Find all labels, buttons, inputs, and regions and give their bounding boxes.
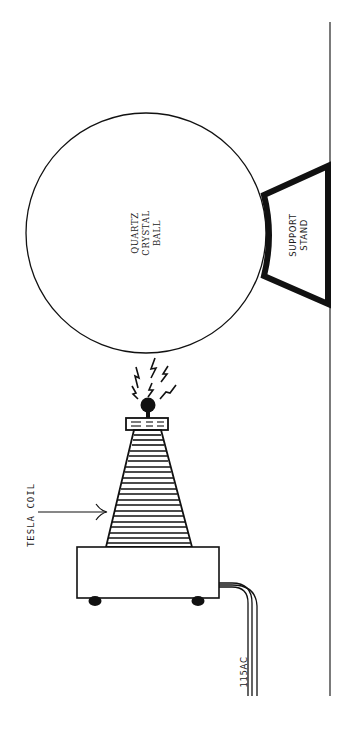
base-wheel-left bbox=[89, 596, 102, 606]
crystal-ball-label-line-3: BALL bbox=[152, 220, 162, 246]
spark-bolt-icon bbox=[160, 385, 176, 399]
spark-bolt-icon bbox=[161, 366, 168, 382]
coil-top-cap bbox=[126, 418, 168, 430]
support-stand-label-line-1: SUPPORT bbox=[288, 213, 298, 256]
spark-bolt-icon bbox=[132, 386, 138, 399]
tesla-coil-arrow-icon bbox=[38, 504, 107, 520]
diagram-canvas: QUARTZ CRYSTAL BALL SUPPORT STAND bbox=[0, 0, 348, 729]
crystal-ball-label-line-1: QUARTZ bbox=[130, 212, 140, 253]
support-stand-label-line-2: STAND bbox=[299, 219, 309, 251]
base-wheel-right bbox=[192, 596, 205, 606]
power-label: 115AC bbox=[239, 657, 249, 688]
spark-bolt-icon bbox=[135, 367, 139, 388]
support-stand-label: SUPPORT STAND bbox=[288, 213, 309, 256]
power-label-text: 115AC bbox=[239, 657, 249, 688]
crystal-ball-label-line-2: CRYSTAL bbox=[141, 210, 151, 255]
coil-top-terminal-stem bbox=[146, 410, 150, 418]
tesla-coil-label: TESLA COIL bbox=[26, 483, 36, 547]
spark-discharge bbox=[132, 358, 176, 399]
crystal-ball-label: QUARTZ CRYSTAL BALL bbox=[130, 210, 162, 255]
coil-base-box bbox=[77, 547, 219, 598]
spark-bolt-icon bbox=[151, 358, 156, 378]
spark-bolt-icon bbox=[148, 383, 153, 397]
power-cord bbox=[219, 583, 257, 696]
tesla-coil-label-text: TESLA COIL bbox=[26, 483, 36, 547]
